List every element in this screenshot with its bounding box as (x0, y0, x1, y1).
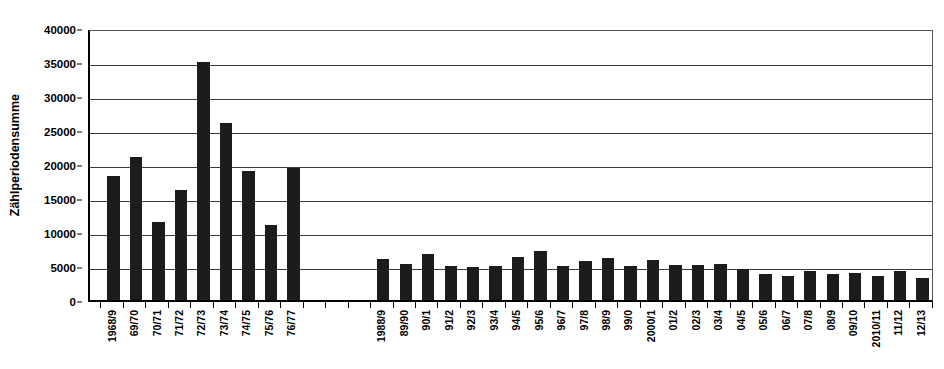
y-tick-label: 35000 (44, 58, 76, 70)
x-tick-mark (820, 302, 821, 308)
x-tick-label: 96/7 (555, 310, 567, 330)
bar (647, 260, 659, 300)
x-tick-label: 73/74 (218, 310, 230, 336)
x-tick-mark (527, 302, 528, 308)
y-tick-label: 10000 (44, 228, 76, 240)
y-tick-mark (77, 64, 82, 65)
x-tick-label: 92/3 (465, 310, 477, 330)
x-tick-mark (348, 302, 349, 308)
plot-area (88, 30, 933, 302)
y-tick-label: 30000 (44, 92, 76, 104)
x-tick-mark (662, 302, 663, 308)
x-tick-mark (437, 302, 438, 308)
y-axis-title-text: Zählperiodensumme (8, 94, 22, 216)
x-tick-mark (460, 302, 461, 308)
bar (692, 265, 704, 300)
x-tick-mark (168, 302, 169, 308)
x-axis-tick-labels: 1968/969/7070/7171/7272/7373/7474/7575/7… (88, 310, 933, 369)
bar (602, 258, 614, 300)
x-tick-label: 97/8 (578, 310, 590, 330)
x-tick-mark (235, 302, 236, 308)
x-tick-label: 04/5 (735, 310, 747, 330)
x-tick-label: 09/10 (847, 310, 859, 336)
x-tick-label: 76/77 (285, 310, 297, 336)
bar (400, 264, 412, 300)
y-tick-mark (77, 98, 82, 99)
x-tick-mark (258, 302, 259, 308)
x-tick-label: 89/90 (398, 310, 410, 336)
bar (422, 254, 434, 300)
x-tick-mark (797, 302, 798, 308)
x-tick-mark (325, 302, 326, 308)
x-tick-mark (887, 302, 888, 308)
y-tick-mark (77, 302, 82, 303)
x-tick-label: 2000/1 (645, 310, 657, 342)
x-tick-mark (370, 302, 371, 308)
bar (894, 271, 906, 300)
x-tick-mark (775, 302, 776, 308)
x-tick-mark (640, 302, 641, 308)
y-tick-mark (77, 268, 82, 269)
y-tick-label: 15000 (44, 194, 76, 206)
x-tick-mark (572, 302, 573, 308)
bar (220, 123, 232, 300)
bar (714, 264, 726, 300)
x-tick-mark (123, 302, 124, 308)
y-tick-label: 0 (70, 296, 76, 308)
x-tick-label: 69/70 (128, 310, 140, 336)
x-tick-label: 08/9 (825, 310, 837, 330)
x-tick-mark (145, 302, 146, 308)
bar (557, 266, 569, 300)
x-tick-label: 74/75 (240, 310, 252, 336)
x-tick-label: 05/6 (757, 310, 769, 330)
x-tick-label: 07/8 (802, 310, 814, 330)
x-tick-label: 1968/9 (106, 310, 118, 342)
x-tick-mark (100, 302, 101, 308)
x-tick-label: 06/7 (780, 310, 792, 330)
bars-layer (90, 31, 932, 300)
x-tick-mark (752, 302, 753, 308)
bar (579, 261, 591, 300)
x-tick-label: 11/12 (892, 310, 904, 336)
x-tick-label: 03/4 (712, 310, 724, 330)
bar (265, 225, 277, 300)
y-axis-title: Zählperiodensumme (0, 0, 30, 310)
bar (467, 267, 479, 300)
bar (287, 168, 299, 300)
x-tick-mark (550, 302, 551, 308)
bar-chart: Zählperiodensumme 0500010000150002000025… (0, 0, 944, 369)
x-tick-label: 2010/11 (870, 310, 882, 347)
bar (916, 278, 928, 300)
x-tick-mark (932, 302, 933, 308)
bar (849, 273, 861, 300)
x-tick-mark (190, 302, 191, 308)
x-tick-label: 94/5 (510, 310, 522, 330)
x-tick-mark (505, 302, 506, 308)
y-tick-mark (77, 166, 82, 167)
x-tick-mark (909, 302, 910, 308)
bar (759, 274, 771, 300)
y-tick-label: 40000 (44, 24, 76, 36)
y-tick-mark (77, 200, 82, 201)
x-tick-label: 01/2 (667, 310, 679, 330)
bar (175, 190, 187, 300)
x-tick-mark (842, 302, 843, 308)
bar (624, 266, 636, 300)
x-tick-label: 90/1 (420, 310, 432, 330)
bar (489, 266, 501, 300)
x-tick-mark (213, 302, 214, 308)
x-axis-ticks (88, 302, 933, 309)
x-tick-label: 99/0 (622, 310, 634, 330)
bar (377, 259, 389, 300)
x-tick-label: 93/4 (488, 310, 500, 330)
bar (534, 251, 546, 300)
x-tick-label: 91/2 (443, 310, 455, 330)
x-tick-mark (730, 302, 731, 308)
x-tick-mark (864, 302, 865, 308)
x-tick-mark (280, 302, 281, 308)
bar (197, 62, 209, 300)
x-tick-mark (617, 302, 618, 308)
bar (782, 276, 794, 300)
y-tick-mark (77, 30, 82, 31)
x-tick-label: 02/3 (690, 310, 702, 330)
